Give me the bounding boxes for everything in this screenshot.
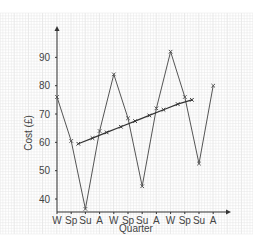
cost-line-chart: 405060708090 WSpSuAWSpSuAWSpSuA Quarter … [0, 0, 253, 243]
x-tick-label: Sp [179, 215, 192, 226]
y-tick-label: 50 [39, 165, 51, 176]
x-tick-label: A [210, 215, 217, 226]
y-tick-label: 60 [39, 137, 51, 148]
x-tick-label: W [52, 215, 62, 226]
x-axis-title: Quarter [119, 223, 154, 234]
x-tick-label: A [153, 215, 160, 226]
y-tick-label: 70 [39, 109, 51, 120]
y-tick-label: 80 [39, 80, 51, 91]
x-tick-label: Sp [65, 215, 78, 226]
x-tick-label: Su [79, 215, 91, 226]
y-axis-ticks: 405060708090 [39, 52, 57, 205]
x-tick-label: Su [193, 215, 205, 226]
x-tick-label: W [109, 215, 119, 226]
y-tick-label: 90 [39, 52, 51, 63]
y-axis-arrow-icon [55, 26, 60, 31]
y-axis-title: Cost (£) [23, 115, 34, 151]
x-tick-label: A [96, 215, 103, 226]
y-tick-label: 40 [39, 194, 51, 205]
cost-series-line [55, 50, 215, 211]
x-tick-label: W [166, 215, 176, 226]
